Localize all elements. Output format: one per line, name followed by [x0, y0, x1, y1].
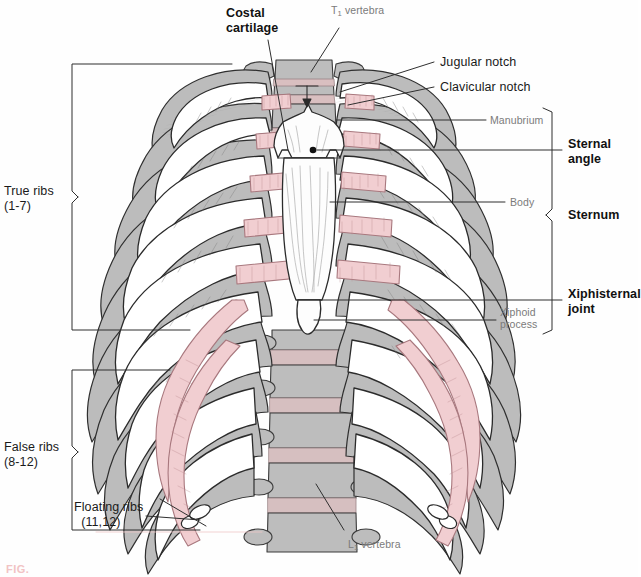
label-floating-ribs: Floating ribs (11,12) [74, 500, 143, 530]
label-l1-subscript: 1 [354, 543, 358, 552]
label-l1-vertebra: L1 vertebra [348, 538, 401, 550]
label-xiphoid-process: Xiphoid process [500, 306, 537, 331]
figure-caption: FIG. [6, 563, 29, 575]
label-l1-suffix: vertebra [358, 538, 400, 550]
label-t1-vertebra: T1 vertebra [331, 4, 384, 16]
label-manubrium: Manubrium [490, 114, 543, 126]
label-xiphisternal-joint: Xiphisternal joint [568, 287, 641, 317]
sternal-angle-marker [310, 147, 317, 154]
label-t1-suffix: vertebra [342, 4, 384, 16]
label-sternal-angle: Sternal angle [568, 137, 611, 167]
label-true-ribs: True ribs (1-7) [4, 184, 54, 214]
label-false-ribs: False ribs (8-12) [4, 440, 59, 470]
label-costal-cartilage: Costal cartilage [226, 6, 278, 36]
label-body: Body [510, 196, 534, 208]
label-sternum: Sternum [568, 208, 619, 223]
label-t1-subscript: 1 [338, 9, 342, 18]
label-t1-prefix: T [331, 4, 338, 16]
label-clavicular-notch: Clavicular notch [440, 80, 531, 95]
label-jugular-notch: Jugular notch [440, 55, 516, 70]
